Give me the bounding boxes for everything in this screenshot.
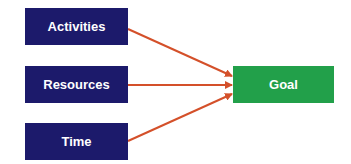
activities-label: Activities bbox=[48, 19, 106, 34]
resources-label: Resources bbox=[43, 77, 109, 92]
goal-box: Goal bbox=[233, 66, 334, 103]
arrow-time-to-goal bbox=[128, 94, 232, 141]
activities-box: Activities bbox=[25, 8, 128, 45]
arrow-activities-to-goal bbox=[128, 29, 232, 76]
resources-box: Resources bbox=[25, 66, 128, 103]
goal-label: Goal bbox=[269, 77, 298, 92]
time-box: Time bbox=[25, 123, 128, 160]
time-label: Time bbox=[61, 134, 91, 149]
